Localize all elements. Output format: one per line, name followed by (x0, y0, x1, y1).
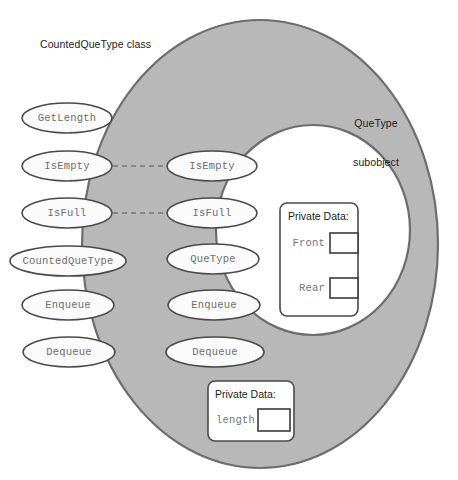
length-value-box[interactable] (258, 409, 290, 431)
operation-label-getlength[interactable]: GetLength (22, 112, 112, 124)
quetype-private-data-title: Private Data: (288, 210, 349, 222)
front-field-label: Front (282, 237, 325, 249)
operation-label-isempty-inner[interactable]: IsEmpty (167, 160, 257, 172)
front-value-box[interactable] (330, 233, 358, 253)
diagram-canvas (0, 0, 458, 480)
quetype-subobject-label-line2: subobject (337, 156, 415, 169)
rear-value-box[interactable] (330, 278, 358, 298)
operation-label-isempty-outer[interactable]: IsEmpty (22, 160, 112, 172)
countedquetype-class-label: CountedQueType class (40, 38, 151, 50)
length-field-label: length (207, 414, 255, 426)
quetype-subobject-label-line1: QueType (337, 117, 415, 130)
operation-label-enqueue-inner[interactable]: Enqueue (168, 299, 260, 311)
countedquetype-private-data-title: Private Data: (215, 388, 276, 400)
operation-label-isfull-inner[interactable]: IsFull (167, 207, 257, 219)
class-diagram: CountedQueType class QueType subobject G… (0, 0, 458, 480)
operation-label-quetype[interactable]: QueType (167, 253, 259, 265)
operation-label-countedquetype[interactable]: CountedQueType (10, 255, 126, 267)
operation-label-dequeue-inner[interactable]: Dequeue (166, 346, 264, 358)
operation-label-dequeue-outer[interactable]: Dequeue (23, 346, 115, 358)
quetype-subobject-label: QueType subobject (337, 91, 415, 195)
rear-field-label: Rear (282, 282, 325, 294)
operation-label-enqueue-outer[interactable]: Enqueue (22, 299, 114, 311)
operation-label-isfull-outer[interactable]: IsFull (22, 207, 112, 219)
